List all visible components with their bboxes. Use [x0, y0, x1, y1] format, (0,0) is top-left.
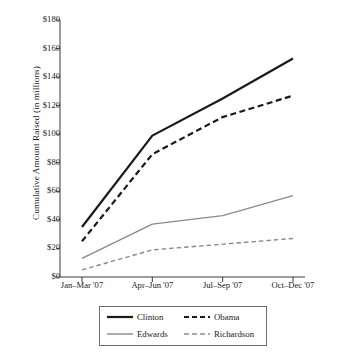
legend-item-richardson: Richardson	[184, 330, 261, 339]
legend-label-obama: Obama	[214, 313, 239, 322]
legend-item-obama: Obama	[184, 313, 261, 322]
legend: Clinton Obama Edwards Richardson	[99, 306, 267, 346]
legend-item-clinton: Clinton	[107, 313, 184, 322]
legend-label-richardson: Richardson	[214, 330, 254, 339]
legend-line-edwards-icon	[107, 330, 133, 338]
x-tick-label: Jul–Sep '07	[183, 280, 263, 290]
x-tick-label: Oct–Dec '07	[253, 280, 333, 290]
x-tick-label: Jan–Mar '07	[42, 280, 122, 290]
legend-line-clinton-icon	[107, 313, 133, 321]
legend-label-clinton: Clinton	[137, 313, 163, 322]
legend-label-edwards: Edwards	[137, 330, 168, 339]
series-line-edwards	[82, 196, 293, 259]
legend-line-obama-icon	[184, 313, 210, 321]
line-chart: Cumulative Amount Raised (in millions) $…	[0, 0, 337, 355]
plot-area	[0, 0, 337, 355]
x-tick-label: Apr–Jun '07	[112, 280, 192, 290]
legend-line-richardson-icon	[184, 330, 210, 338]
legend-item-edwards: Edwards	[107, 330, 184, 339]
